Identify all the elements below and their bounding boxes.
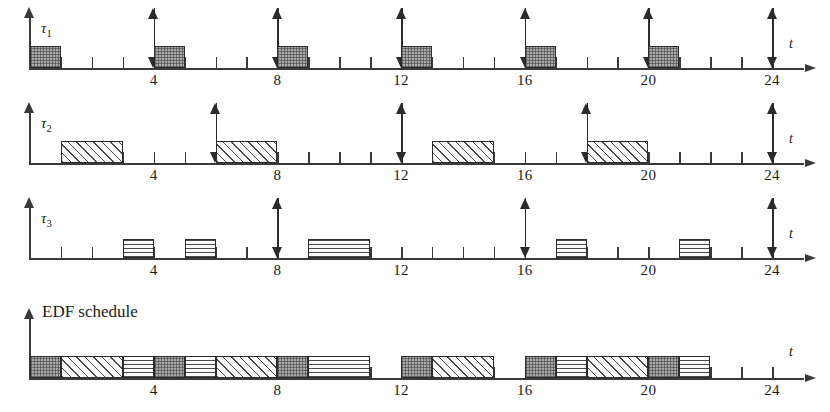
tick-tau2-10 [339, 152, 341, 163]
tick-tau1-13 [432, 57, 434, 68]
tick-tau3-14 [463, 247, 465, 258]
tick-edf-15 [494, 367, 496, 378]
time-axis-tau2 [29, 163, 804, 165]
block-tau2-1 [216, 141, 278, 163]
time-axis-arrowhead-edf [805, 374, 816, 382]
tick-tau1-6 [216, 57, 218, 68]
block-tau2-0 [61, 141, 123, 163]
block-tau1-2 [277, 46, 308, 68]
time-label-edf-16: 16 [509, 382, 541, 399]
time-label-tau2-16: 16 [509, 167, 541, 184]
block-edf-1 [61, 356, 123, 378]
arrow-head-up [396, 8, 406, 19]
tick-edf-22 [710, 367, 712, 378]
axis-name-tau2: t [789, 131, 793, 147]
tick-tau3-7 [246, 247, 248, 258]
time-label-edf-8: 8 [261, 382, 293, 399]
time-label-tau1-12: 12 [385, 72, 417, 89]
tick-tau2-4 [154, 152, 156, 163]
block-edf-8 [401, 356, 432, 378]
time-label-tau2-8: 8 [261, 167, 293, 184]
arrow-head-up [210, 103, 220, 114]
block-edf-6 [277, 356, 308, 378]
tick-tau2-16 [525, 152, 527, 163]
arrow-head-up [520, 198, 530, 209]
time-label-tau3-20: 20 [632, 262, 664, 279]
time-label-tau2-12: 12 [385, 167, 417, 184]
tick-tau1-11 [370, 57, 372, 68]
task-label-subscript: 3 [46, 218, 51, 229]
arrow-head-up [272, 8, 282, 19]
tick-tau1-9 [308, 57, 310, 68]
arrow-head-up [767, 198, 777, 209]
tick-tau2-3 [123, 152, 125, 163]
release-arrow-tau3-2 [520, 198, 530, 258]
block-tau1-1 [154, 46, 185, 68]
release-arrow-tau2-2 [396, 103, 406, 163]
block-tau3-3 [556, 239, 587, 258]
tick-tau1-23 [741, 57, 743, 68]
arrow-head-up [272, 198, 282, 209]
time-label-tau1-24: 24 [756, 72, 788, 89]
time-axis-tau3 [29, 258, 804, 260]
tick-tau3-11 [370, 247, 372, 258]
task-label-subscript: 1 [46, 28, 51, 39]
tick-tau2-20 [648, 152, 650, 163]
block-tau3-4 [679, 239, 710, 258]
time-label-tau3-12: 12 [385, 262, 417, 279]
tick-tau1-7 [246, 57, 248, 68]
tick-tau3-12 [401, 247, 403, 258]
tick-tau3-6 [216, 247, 218, 258]
tick-tau1-2 [92, 57, 94, 68]
tick-tau1-1 [61, 57, 63, 68]
tick-tau1-15 [494, 57, 496, 68]
tick-tau1-10 [339, 57, 341, 68]
tick-tau2-21 [679, 152, 681, 163]
block-tau3-2 [308, 239, 370, 258]
block-tau3-1 [185, 239, 216, 258]
tick-tau1-5 [185, 57, 187, 68]
tick-edf-11 [370, 367, 372, 378]
time-label-edf-20: 20 [632, 382, 664, 399]
time-axis-arrowhead-tau1 [805, 64, 816, 72]
tick-tau2-8 [277, 152, 279, 163]
arrow-head-up [396, 103, 406, 114]
tick-tau1-21 [679, 57, 681, 68]
arrow-head-up [520, 8, 530, 19]
tick-tau2-5 [185, 152, 187, 163]
tick-tau2-15 [494, 152, 496, 163]
tick-tau2-11 [370, 152, 372, 163]
time-axis-edf [29, 378, 804, 380]
block-tau2-2 [432, 141, 494, 163]
block-edf-7 [308, 356, 370, 378]
release-arrow-tau2-4 [767, 103, 777, 163]
release-arrow-tau3-3 [767, 198, 777, 258]
tick-tau3-1 [61, 247, 63, 258]
block-edf-5 [216, 356, 278, 378]
tick-tau3-2 [92, 247, 94, 258]
block-edf-13 [648, 356, 679, 378]
block-edf-2 [123, 356, 154, 378]
time-axis-arrowhead-tau2 [805, 159, 816, 167]
time-label-edf-24: 24 [756, 382, 788, 399]
tick-tau1-17 [556, 57, 558, 68]
time-label-tau2-20: 20 [632, 167, 664, 184]
arrow-head-down [520, 247, 530, 258]
block-edf-12 [587, 356, 649, 378]
tick-tau2-23 [741, 152, 743, 163]
tick-tau1-3 [123, 57, 125, 68]
value-axis-tau3 [29, 207, 31, 258]
time-axis-arrowhead-tau3 [805, 254, 816, 262]
axis-name-tau3: t [789, 226, 793, 242]
tick-tau3-19 [617, 247, 619, 258]
time-label-tau3-24: 24 [756, 262, 788, 279]
value-axis-arrowhead-tau2 [24, 102, 34, 113]
value-axis-arrowhead-edf [24, 308, 34, 319]
block-tau1-5 [648, 46, 679, 68]
tick-tau1-14 [463, 57, 465, 68]
time-label-tau2-4: 4 [138, 167, 170, 184]
tick-tau2-9 [308, 152, 310, 163]
block-edf-4 [185, 356, 216, 378]
block-tau1-0 [30, 46, 61, 68]
value-axis-tau2 [29, 112, 31, 163]
